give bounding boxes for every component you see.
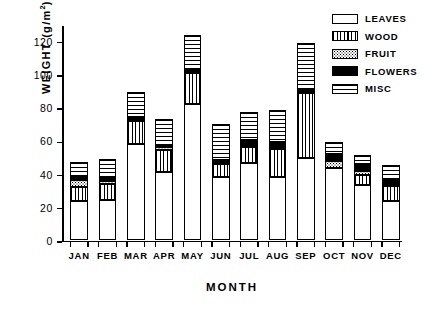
bar-segment-leaves (212, 177, 230, 240)
bar-segment-flowers (99, 177, 117, 181)
x-axis-tick (144, 242, 145, 247)
bar-segment-flowers (269, 142, 287, 149)
bar-segment-flowers (212, 160, 230, 164)
bar-segment-misc (70, 162, 88, 176)
bar-segment-misc (240, 112, 258, 140)
x-axis-tick (98, 242, 99, 247)
bar-jun (212, 124, 230, 240)
legend-item-leaves: LEAVES (332, 10, 428, 28)
x-axis-title: MONTH (62, 281, 402, 293)
y-axis-line (62, 26, 64, 242)
bar-segment-wood (269, 149, 287, 177)
x-axis-tick (240, 242, 241, 247)
x-axis-tick (87, 242, 88, 247)
bar-segment-leaves (155, 172, 173, 240)
bar-aug (269, 110, 287, 240)
bar-segment-wood (382, 186, 400, 202)
bar-segment-wood (297, 93, 315, 159)
y-axis-tick-label: 60 (40, 135, 53, 148)
y-axis-tick (57, 175, 62, 176)
bar-segment-wood (354, 175, 372, 185)
x-axis-tick (229, 242, 230, 247)
bar-segment-flowers (325, 154, 343, 161)
y-axis-tick (57, 42, 62, 43)
bar-jan (70, 162, 88, 240)
legend-swatch-flowers (332, 66, 358, 76)
bar-segment-wood (240, 147, 258, 163)
bar-segment-misc (99, 159, 117, 177)
bar-segment-misc (212, 124, 230, 160)
bar-segment-wood (70, 187, 88, 201)
legend-swatch-leaves (332, 14, 358, 24)
x-axis-tick (70, 242, 71, 247)
bar-apr (155, 119, 173, 240)
bar-segment-leaves (240, 163, 258, 240)
legend-item-misc: MISC (332, 80, 428, 98)
bar-segment-misc (155, 119, 173, 145)
x-axis-tick (314, 242, 315, 247)
x-axis-label-dec: DEC (371, 250, 411, 261)
bar-segment-leaves (297, 158, 315, 240)
legend-swatch-misc (332, 84, 358, 94)
bar-may (184, 35, 202, 240)
y-axis-tick-label: 80 (40, 102, 53, 115)
bar-nov (354, 155, 372, 241)
x-axis-tick (211, 242, 212, 247)
x-axis-tick (155, 242, 156, 247)
bar-segment-leaves (99, 200, 117, 241)
bar-segment-leaves (354, 185, 372, 241)
x-axis-line (62, 241, 402, 243)
bar-segment-leaves (127, 144, 145, 240)
bar-segment-leaves (70, 201, 88, 240)
bar-feb (99, 159, 117, 240)
bar-segment-flowers (382, 180, 400, 186)
legend-label-flowers: FLOWERS (365, 66, 417, 77)
legend-label-fruit: FRUIT (365, 48, 396, 59)
y-axis-tick-label: 40 (40, 169, 53, 182)
y-axis-tick-label: 20 (40, 202, 53, 215)
legend-swatch-wood (332, 31, 358, 41)
bar-segment-fruit (354, 171, 372, 175)
chart-legend: LEAVESWOODFRUITFLOWERSMISC (332, 10, 428, 98)
legend-item-fruit: FRUIT (332, 45, 428, 63)
bar-segment-leaves (269, 177, 287, 240)
y-axis-tick (57, 75, 62, 76)
x-axis-tick (296, 242, 297, 247)
x-axis-tick (371, 242, 372, 247)
bar-segment-flowers (184, 70, 202, 72)
y-axis-tick (57, 142, 62, 143)
y-axis-title-exponent: 2 (38, 5, 47, 9)
x-axis-tick (268, 242, 269, 247)
x-axis-tick (325, 242, 326, 247)
bar-segment-flowers (354, 164, 372, 171)
bar-segment-fruit (325, 161, 343, 168)
bar-mar (127, 92, 145, 241)
x-axis-tick (116, 242, 117, 247)
bar-segment-fruit (155, 147, 173, 149)
bar-segment-wood (99, 184, 117, 200)
bar-segment-misc (354, 155, 372, 164)
bar-segment-misc (382, 165, 400, 180)
legend-label-leaves: LEAVES (365, 13, 407, 24)
legend-label-wood: WOOD (365, 31, 398, 42)
bar-segment-wood (127, 121, 145, 144)
x-axis-tick (399, 242, 400, 247)
x-axis-tick (286, 242, 287, 247)
bar-segment-wood (155, 150, 173, 172)
x-axis-tick (183, 242, 184, 247)
x-axis-tick (381, 242, 382, 247)
bar-jul (240, 112, 258, 241)
y-axis-tick (57, 208, 62, 209)
bar-segment-flowers (240, 140, 258, 147)
chart-figure: 020406080100120 JANFEBMARAPRMAYJUNJULAUG… (0, 0, 428, 316)
y-axis-title-suffix: ) (40, 0, 52, 5)
legend-item-wood: WOOD (332, 28, 428, 46)
bar-segment-leaves (184, 104, 202, 240)
bar-segment-flowers (155, 145, 173, 147)
bar-segment-wood (212, 164, 230, 177)
bar-segment-flowers (297, 90, 315, 92)
x-axis-tick (342, 242, 343, 247)
legend-label-misc: MISC (365, 83, 392, 94)
bar-dec (382, 165, 400, 241)
x-axis-tick (353, 242, 354, 247)
